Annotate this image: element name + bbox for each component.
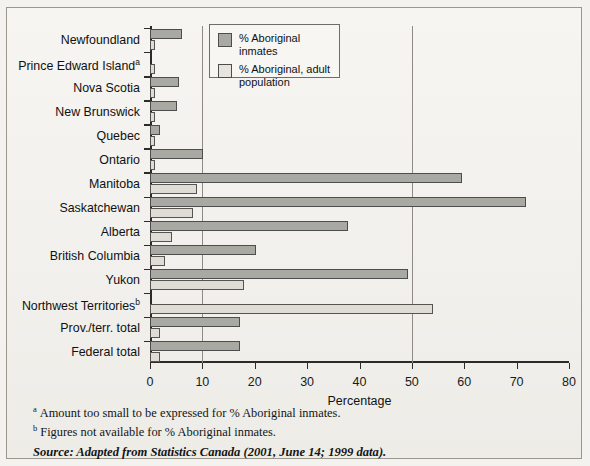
x-tick-20 [255,363,256,369]
bar-population [150,280,244,290]
category-footnote-marker: b [135,297,140,307]
footnote-a-text: Amount too small to be expressed for % A… [40,406,341,420]
bar-inmates [150,101,177,111]
legend-label-inmates: % Aboriginal inmates [239,32,331,57]
category-axis-labels: NewfoundlandPrince Edward IslandaNova Sc… [7,26,144,363]
x-tick-label-20: 20 [248,375,262,389]
category-label-manitoba: Manitoba [89,177,140,191]
x-tick-label-60: 60 [457,375,471,389]
x-tick-10 [202,363,203,369]
bar-population [150,88,155,98]
footnote-b: bFigures not available for % Aboriginal … [33,423,553,440]
category-tick [144,293,150,294]
bar-population [150,112,155,122]
bar-row [150,197,569,219]
chart-legend: % Aboriginal inmates % Aboriginal, adult… [209,24,340,78]
bar-population [150,64,155,74]
bar-row [150,173,569,195]
x-tick-label-50: 50 [405,375,419,389]
bar-inmates [150,29,182,39]
category-label-new-brunswick: New Brunswick [55,105,140,119]
legend-label-population: % Aboriginal, adult population [239,63,331,88]
bar-population [150,40,155,50]
bar-row [150,293,569,315]
bar-row [150,221,569,243]
category-label-newfoundland: Newfoundland [61,33,140,47]
bar-inmates [150,317,240,327]
bar-row [150,317,569,339]
x-tick-label-30: 30 [300,375,314,389]
bar-row [150,341,569,363]
x-tick-label-10: 10 [195,375,209,389]
bar-population [150,256,165,266]
x-tick-60 [464,363,465,369]
bar-inmates [150,269,408,279]
category-label-federal-total: Federal total [71,345,140,359]
bar-inmates [150,197,526,207]
legend-swatch-inmates [218,33,232,47]
x-tick-30 [307,363,308,369]
category-label-northwest-territories: Northwest Territoriesb [22,297,140,313]
footnote-a-marker: a [33,404,37,414]
figure-frame: NewfoundlandPrince Edward IslandaNova Sc… [6,7,582,459]
footnote-b-marker: b [33,423,37,433]
x-tick-label-70: 70 [510,375,524,389]
category-footnote-marker: a [135,57,140,67]
bar-inmates [150,77,179,87]
bar-row [150,125,569,147]
x-tick-70 [517,363,518,369]
x-tick-label-40: 40 [353,375,367,389]
category-label-prov-terr-total: Prov./terr. total [60,321,140,335]
bar-row [150,269,569,291]
bar-population [150,352,160,362]
bar-inmates [150,173,462,183]
category-label-yukon: Yukon [106,273,140,287]
bar-row [150,149,569,171]
bar-row [150,101,569,123]
bar-population [150,304,433,314]
category-label-saskatchewan: Saskatchewan [59,201,140,215]
legend-item-population: % Aboriginal, adult population [218,63,331,88]
category-label-alberta: Alberta [101,225,140,239]
category-label-nova-scotia: Nova Scotia [73,81,140,95]
bar-row [150,77,569,99]
legend-swatch-population [218,64,232,78]
x-tick-80 [569,363,570,369]
figure-container: NewfoundlandPrince Edward IslandaNova Sc… [0,0,590,466]
legend-item-inmates: % Aboriginal inmates [218,32,331,57]
bar-population [150,328,160,338]
footnote-a: aAmount too small to be expressed for % … [33,404,553,421]
bar-population [150,136,155,146]
footnote-b-text: Figures not available for % Aboriginal i… [40,425,276,439]
bar-population [150,184,197,194]
category-tick [144,52,150,53]
bar-population [150,160,155,170]
bar-inmates [150,149,203,159]
category-label-quebec: Quebec [97,129,140,143]
bar-population [150,232,172,242]
x-tick-0 [150,363,151,369]
source-note: Source: Adapted from Statistics Canada (… [33,445,386,460]
bar-inmates [150,125,160,135]
bar-inmates [150,221,348,231]
bar-population [150,208,193,218]
bar-inmates [150,245,256,255]
bar-row [150,245,569,267]
bar-inmates [150,341,240,351]
x-tick-label-80: 80 [562,375,576,389]
category-label-ontario: Ontario [99,153,140,167]
x-tick-40 [360,363,361,369]
x-tick-50 [412,363,413,369]
category-label-british-columbia: British Columbia [50,249,140,263]
x-tick-label-0: 0 [147,375,154,389]
footnotes: aAmount too small to be expressed for % … [33,404,553,442]
category-label-prince-edward-island: Prince Edward Islanda [18,57,140,73]
